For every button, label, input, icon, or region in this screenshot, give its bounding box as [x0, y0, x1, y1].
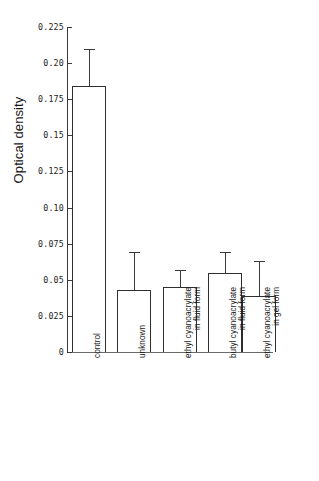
- x-label-line-1: butyl cyanoacrylate: [229, 287, 238, 358]
- error-bar-cap: [129, 252, 140, 253]
- bar-chart-figure: Optical density 00.0250.050.0750.100.125…: [0, 0, 319, 481]
- error-bar-stem: [134, 252, 135, 290]
- x-axis-tick-label-text: unknown: [138, 325, 147, 358]
- error-bar-cap: [175, 270, 186, 271]
- error-bar-cap: [220, 252, 231, 253]
- plot-area: [0, 0, 319, 481]
- error-bar-stem: [259, 261, 260, 296]
- x-axis-tick-label-text: control: [93, 333, 102, 358]
- x-label-line-2: in fluid form: [193, 287, 202, 358]
- x-label-line-1: control: [93, 333, 102, 358]
- bar: [72, 86, 106, 352]
- x-label-line-1: ethyl cyanoacrylate: [184, 287, 193, 358]
- error-bar-cap: [254, 261, 265, 262]
- error-bar-cap: [84, 49, 95, 50]
- error-bar-stem: [89, 49, 90, 87]
- x-axis-tick-label-text: ethyl cyanoacrylatein gel form: [263, 287, 282, 358]
- x-axis-tick-label-text: ethyl cyanoacrylatein fluid form: [184, 287, 203, 358]
- x-label-line-1: ethyl cyanoacrylate: [263, 287, 272, 358]
- x-label-line-1: unknown: [138, 325, 147, 358]
- error-bar-stem: [180, 270, 181, 287]
- error-bar-stem: [225, 252, 226, 272]
- x-label-line-2: in gel form: [272, 287, 281, 358]
- x-axis-tick-label-text: butyl cyanoacrylatein fluid form: [229, 287, 248, 358]
- x-label-line-2: in fluid form: [238, 287, 247, 358]
